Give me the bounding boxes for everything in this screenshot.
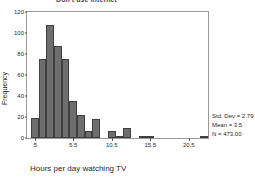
x-axis-tick-label: 15.5 — [144, 142, 156, 148]
histogram-bar — [108, 131, 116, 138]
y-axis-tick-mark — [25, 96, 27, 97]
histogram-bar — [54, 46, 62, 138]
x-axis-tick-mark — [73, 138, 74, 141]
histogram-bar — [123, 128, 131, 139]
x-axis-tick-mark — [189, 138, 190, 141]
y-axis-tick-mark — [25, 12, 27, 13]
y-axis-tick-mark — [25, 75, 27, 76]
histogram-bar — [139, 136, 147, 138]
y-axis-tick-mark — [25, 138, 27, 139]
plot-area: 020406080100120.55.510.515.520.5 — [26, 11, 209, 139]
x-axis-tick-label: 10.5 — [106, 142, 118, 148]
stat-n: N = 473.00 — [212, 130, 254, 139]
x-axis-title: Hours per day watching TV — [30, 164, 126, 173]
stat-mean: Mean = 3.5 — [212, 121, 254, 130]
y-axis-tick-mark — [25, 54, 27, 55]
x-axis-tick-mark — [112, 138, 113, 141]
plot-inner: 020406080100120.55.510.515.520.5 — [27, 12, 208, 138]
chart-title: Don't use Internet — [56, 0, 117, 2]
x-axis-tick-label: .5 — [32, 142, 37, 148]
histogram-bar — [92, 119, 100, 138]
histogram-bar — [62, 59, 70, 138]
x-axis-tick-label: 5.5 — [69, 142, 77, 148]
y-axis-title: Frequency — [1, 72, 8, 105]
histogram-bar — [46, 25, 54, 138]
histogram-bar — [85, 131, 93, 138]
y-axis-tick-mark — [25, 33, 27, 34]
statistics-box: Std. Dev = 2.79 Mean = 3.5 N = 473.00 — [212, 112, 254, 139]
x-axis-tick-mark — [150, 138, 151, 141]
histogram-bar — [77, 115, 85, 138]
histogram-bar — [200, 136, 208, 138]
histogram-bar — [39, 59, 47, 138]
x-axis-tick-label: 20.5 — [183, 142, 195, 148]
histogram-bar — [69, 101, 77, 138]
histogram-bar — [31, 118, 39, 138]
histogram-figure: Don't use Internet 020406080100120.55.51… — [0, 0, 255, 178]
x-axis-tick-mark — [35, 138, 36, 141]
stat-std-dev: Std. Dev = 2.79 — [212, 112, 254, 121]
y-axis-tick-mark — [25, 117, 27, 118]
histogram-bar — [116, 136, 124, 138]
